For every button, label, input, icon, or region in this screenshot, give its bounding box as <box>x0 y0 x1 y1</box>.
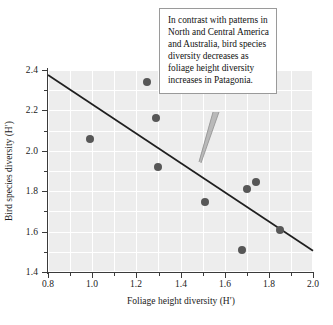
x-axis-tick-minor <box>70 273 71 276</box>
x-axis-tick-minor <box>291 273 292 276</box>
y-axis-tick-label: 2.4 <box>26 65 38 75</box>
gridline-horizontal <box>48 211 313 212</box>
x-axis-tick-label: 1.4 <box>175 279 187 289</box>
callout-text: In contrast with patterns in North and C… <box>168 14 269 87</box>
y-axis-tick-minor <box>44 90 47 91</box>
y-axis-tick-major <box>42 151 47 152</box>
y-axis-title: Bird species diversity (H′) <box>4 121 14 221</box>
y-axis-tick-label: 1.6 <box>26 227 38 237</box>
y-axis-tick-minor <box>44 252 47 253</box>
data-point <box>243 185 251 193</box>
x-axis-tick-minor <box>247 273 248 276</box>
y-axis-line <box>47 68 48 274</box>
x-axis-title: Foliage height diversity (H′) <box>127 296 235 306</box>
x-axis-tick-minor <box>159 273 160 276</box>
y-axis-tick-major <box>42 110 47 111</box>
gridline-horizontal <box>48 110 313 111</box>
x-axis-tick-minor <box>203 273 204 276</box>
x-axis-tick-major <box>92 273 93 278</box>
x-axis-tick-major <box>269 273 270 278</box>
x-axis-tick-label: 0.8 <box>42 279 54 289</box>
callout-box: In contrast with patterns in North and C… <box>159 8 277 94</box>
y-axis-tick-label: 2.2 <box>26 105 38 115</box>
y-axis-tick-major <box>42 70 47 71</box>
x-axis-tick-label: 2.0 <box>307 279 319 289</box>
x-axis-tick-minor <box>114 273 115 276</box>
data-point <box>276 226 284 234</box>
scatter-plot-figure: 0.8 1.0 1.2 1.4 1.6 1.8 2.0 1.4 1.6 1.8 … <box>0 0 333 325</box>
gridline-horizontal <box>48 131 313 132</box>
gridline-horizontal <box>48 232 313 233</box>
x-axis-tick-major <box>181 273 182 278</box>
y-axis-tick-minor <box>44 131 47 132</box>
gridline-horizontal <box>48 191 313 192</box>
data-point <box>86 135 94 143</box>
y-axis-tick-major <box>42 272 47 273</box>
plot-area <box>48 70 313 272</box>
x-axis-tick-major <box>48 273 49 278</box>
x-axis-tick-major <box>225 273 226 278</box>
x-axis-tick-major <box>313 273 314 278</box>
data-point <box>252 178 260 186</box>
x-axis-tick-major <box>136 273 137 278</box>
y-axis-tick-label: 1.4 <box>26 267 38 277</box>
y-axis-tick-label: 1.8 <box>26 186 38 196</box>
gridline-horizontal <box>48 151 313 152</box>
gridline-horizontal <box>48 171 313 172</box>
x-axis-tick-label: 1.8 <box>263 279 275 289</box>
y-axis-tick-minor <box>44 171 47 172</box>
x-axis-tick-label: 1.2 <box>130 279 142 289</box>
gridline-horizontal <box>48 252 313 253</box>
y-axis-tick-major <box>42 232 47 233</box>
y-axis-tick-major <box>42 191 47 192</box>
x-axis-tick-label: 1.6 <box>219 279 231 289</box>
x-axis-tick-label: 1.0 <box>86 279 98 289</box>
y-axis-tick-minor <box>44 211 47 212</box>
y-axis-tick-label: 2.0 <box>26 146 38 156</box>
